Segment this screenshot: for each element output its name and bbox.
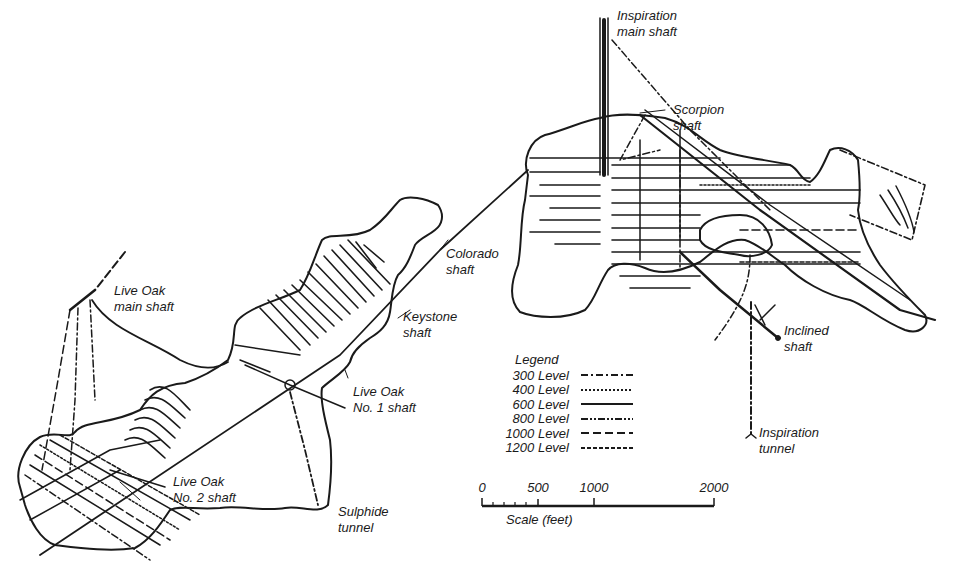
legend-item-label: 600 Level [473, 397, 569, 412]
legend-item: 600 Level [483, 397, 653, 412]
legend-item-label: 800 Level [473, 411, 569, 426]
legend-item: 1000 Level [483, 426, 653, 441]
legend-item: 1200 Level [483, 441, 653, 456]
legend-line-swatch [579, 386, 635, 394]
scale-tick-label: 1000 [580, 480, 609, 495]
legend-line-swatch [579, 429, 635, 437]
legend-item: 300 Level [483, 368, 653, 383]
label-live-oak-main-shaft: Live Oak main shaft [114, 283, 174, 315]
colorado-drift [40, 170, 528, 555]
scale-tick-label: 2000 [700, 480, 729, 495]
mine-map [0, 0, 954, 561]
east-block-levels [530, 158, 860, 288]
east-arcs [880, 186, 914, 232]
label-inclined-shaft: Inclined shaft [784, 323, 829, 355]
scale-tick-label: 0 [478, 480, 485, 495]
legend-item-label: 1200 Level [473, 440, 569, 455]
scale-tick-label: 500 [527, 480, 549, 495]
legend-title: Legend [515, 352, 653, 368]
legend-item-label: 300 Level [473, 368, 569, 383]
legend-item: 800 Level [483, 412, 653, 427]
label-sulphide-tunnel: Sulphide tunnel [338, 504, 389, 536]
legend-line-swatch [579, 415, 635, 423]
label-live-oak-no1-shaft: Live Oak No. 1 shaft [353, 384, 416, 416]
legend-item-label: 1000 Level [473, 426, 569, 441]
label-inspiration-tunnel: Inspiration tunnel [759, 425, 819, 457]
label-colorado-shaft: Colorado shaft [446, 246, 499, 278]
legend-line-swatch [579, 444, 635, 452]
sulphide-tunnel [290, 392, 318, 505]
label-inspiration-main-shaft: Inspiration main shaft [617, 8, 677, 40]
legend-item-label: 400 Level [473, 382, 569, 397]
legend: Legend 300 Level400 Level600 Level800 Le… [483, 352, 653, 455]
inner-lobe [700, 215, 772, 256]
scale-tick-labels: 050010002000 [478, 480, 718, 496]
legend-item: 400 Level [483, 383, 653, 398]
scale-title: Scale (feet) [506, 512, 572, 527]
inspiration-workings-outline [512, 115, 926, 332]
legend-line-swatch [579, 400, 635, 408]
scale-ruler [478, 496, 718, 510]
label-scorpion-shaft: Scorpion shaft [673, 102, 724, 134]
inclined-shaft [680, 252, 778, 338]
label-live-oak-no2-shaft: Live Oak No. 2 shaft [173, 474, 236, 506]
scale-bar: 050010002000 Scale (feet) [478, 480, 718, 496]
label-keystone-shaft: Keystone shaft [403, 309, 457, 341]
legend-line-swatch [579, 371, 635, 379]
